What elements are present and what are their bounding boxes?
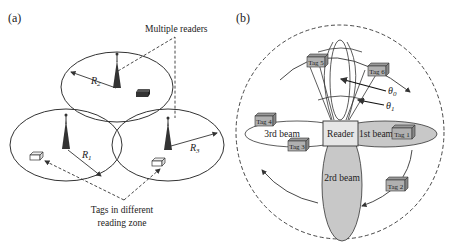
reader-antenna-3-icon [164, 117, 172, 151]
rotation-arrow-left [262, 170, 318, 203]
radius-r3-label: R3 [189, 142, 200, 155]
angle-theta0-arrow [341, 79, 386, 91]
radius-r1-label: R1 [81, 149, 92, 162]
tag-4: Tag 4 [255, 113, 276, 126]
callout-tags-line1: Tags in different [91, 205, 154, 215]
tag-3: Tag 3 [288, 138, 309, 151]
panel-a-label: (a) [8, 11, 21, 25]
callout-tags-line2: reading zone [98, 218, 147, 228]
angle-theta1-label: θ1 [386, 100, 394, 113]
svg-text:Tag 1: Tag 1 [394, 131, 410, 139]
tag-2: Tag 2 [386, 177, 408, 191]
angle-theta1-arrow [358, 100, 384, 105]
panel-b: (b) θ0 θ1 Reader [236, 11, 444, 241]
reader-label: Reader [327, 129, 355, 139]
svg-text:Tag 2: Tag 2 [388, 183, 404, 191]
callout-multiple-readers: Multiple readers [145, 24, 208, 34]
callout-tags-leader-right [124, 169, 160, 200]
svg-text:Tag 3: Tag 3 [289, 143, 305, 151]
svg-text:Tag 6: Tag 6 [369, 68, 385, 76]
tag-zone1-icon [30, 152, 43, 160]
panel-b-label: (b) [236, 11, 250, 25]
reader-antenna-1-icon [62, 114, 70, 150]
figure: (a) R2 R1 R3 [0, 0, 452, 248]
radius-r2-label: R2 [90, 75, 101, 88]
callout-readers-leader [118, 37, 175, 118]
svg-text:Tag 5: Tag 5 [308, 59, 324, 67]
tag-6: Tag 6 [368, 63, 389, 76]
tag-1: Tag 1 [392, 125, 415, 139]
beam-3-label: 3rd beam [264, 129, 300, 139]
beam-2-label: 2rd beam [324, 173, 360, 183]
panel-a: (a) R2 R1 R3 [8, 11, 224, 228]
angle-theta0-label: θ0 [388, 85, 397, 98]
tag-5: Tag 5 [307, 54, 328, 67]
beam-1-label: 1st beam [359, 129, 394, 139]
tag-zone3-icon [152, 158, 165, 166]
svg-text:Tag 4: Tag 4 [256, 118, 272, 126]
tag-dark-icon [136, 89, 150, 97]
